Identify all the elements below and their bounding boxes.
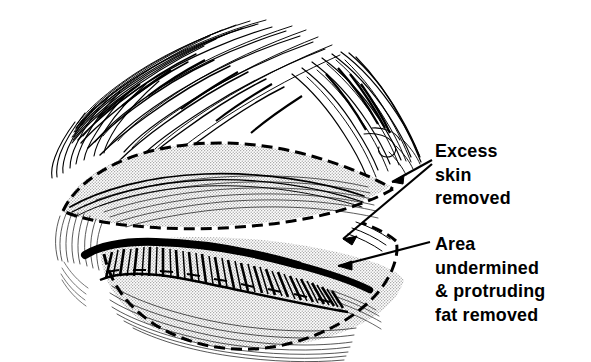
callout-area-undermined-fat-removed: Area undermined & protruding fat removed [435,232,545,326]
callout-excess-skin-removed: Excess skin removed [435,139,511,210]
callout-excess-line-2: skin [435,163,511,187]
callout-area-line-1: Area [435,232,545,256]
callout-excess-line-3: removed [435,186,511,210]
callout-area-line-4: fat removed [435,303,545,327]
inner-canthus-hatching [56,213,102,270]
callout-area-line-3: & protruding [435,279,545,303]
lower-lid-stipple [90,230,420,360]
outer-canthus-detail [348,222,390,251]
callout-area-line-2: undermined [435,256,545,280]
inner-canthus-hatching-lower [61,262,88,306]
figure-canvas: Excess skin removed Area undermined & pr… [0,0,591,362]
callout-excess-line-1: Excess [435,139,511,163]
